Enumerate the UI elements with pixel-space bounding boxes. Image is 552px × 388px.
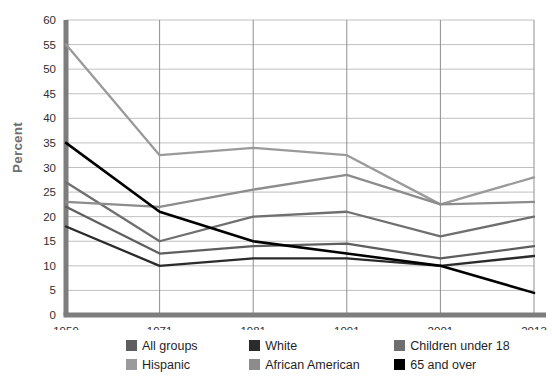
legend-item-hispanic[interactable]: Hispanic bbox=[126, 358, 249, 372]
svg-text:1991: 1991 bbox=[334, 325, 360, 330]
legend-item-all-groups[interactable]: All groups bbox=[126, 339, 249, 353]
legend-item-children-under-18[interactable]: Children under 18 bbox=[394, 339, 552, 353]
svg-text:1981: 1981 bbox=[240, 325, 266, 330]
legend-label-children-under-18: Children under 18 bbox=[410, 339, 509, 353]
svg-text:20: 20 bbox=[43, 211, 56, 223]
legend-swatch-white bbox=[249, 340, 260, 351]
svg-text:30: 30 bbox=[43, 162, 56, 174]
svg-text:2001: 2001 bbox=[428, 325, 454, 330]
legend-row-2: Hispanic African American 65 and over bbox=[0, 355, 552, 374]
svg-text:15: 15 bbox=[43, 235, 56, 247]
legend-swatch-all-groups bbox=[126, 340, 137, 351]
svg-text:55: 55 bbox=[43, 39, 56, 51]
legend-label-white: White bbox=[265, 339, 297, 353]
legend-label-all-groups: All groups bbox=[142, 339, 198, 353]
legend-label-65-and-over: 65 and over bbox=[410, 358, 476, 372]
legend-item-65-and-over[interactable]: 65 and over bbox=[394, 358, 552, 372]
plot-area: Percent 05101520253035404550556019591971… bbox=[0, 0, 552, 330]
svg-text:25: 25 bbox=[43, 186, 56, 198]
svg-text:1971: 1971 bbox=[147, 325, 173, 330]
legend-swatch-65-and-over bbox=[394, 359, 405, 370]
legend-item-white[interactable]: White bbox=[249, 339, 394, 353]
svg-text:1959: 1959 bbox=[53, 325, 79, 330]
svg-text:60: 60 bbox=[43, 14, 56, 26]
legend-swatch-african-american bbox=[249, 359, 260, 370]
svg-text:35: 35 bbox=[43, 137, 56, 149]
chart-svg: 0510152025303540455055601959197119811991… bbox=[0, 0, 552, 330]
legend-swatch-children-under-18 bbox=[394, 340, 405, 351]
legend-swatch-hispanic bbox=[126, 359, 137, 370]
chart-footnote bbox=[0, 381, 552, 388]
svg-text:40: 40 bbox=[43, 112, 56, 124]
legend-item-african-american[interactable]: African American bbox=[249, 358, 394, 372]
poverty-rate-line-chart: Percent 05101520253035404550556019591971… bbox=[0, 0, 552, 388]
svg-text:5: 5 bbox=[50, 284, 56, 296]
svg-text:45: 45 bbox=[43, 88, 56, 100]
legend-label-african-american: African American bbox=[265, 358, 359, 372]
legend-label-hispanic: Hispanic bbox=[142, 358, 190, 372]
svg-text:50: 50 bbox=[43, 63, 56, 75]
svg-text:0: 0 bbox=[50, 309, 56, 321]
chart-legend: All groups White Children under 18 Hispa… bbox=[0, 336, 552, 382]
svg-text:2013: 2013 bbox=[521, 325, 547, 330]
svg-text:10: 10 bbox=[43, 260, 56, 272]
legend-row-1: All groups White Children under 18 bbox=[0, 336, 552, 355]
